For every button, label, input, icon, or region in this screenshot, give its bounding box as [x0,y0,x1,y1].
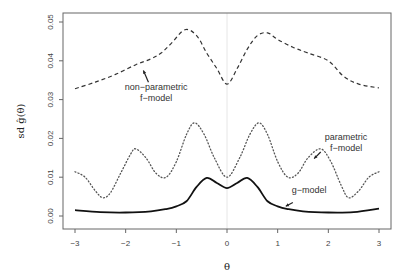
x-axis-title: θ [224,261,230,272]
annotation-label: non−parametric [125,82,188,92]
x-axis: −3−2−10123 [70,229,381,248]
y-tick-label: 0.04 [46,52,55,68]
y-tick-label: 0.03 [46,91,55,107]
chart-figure: −3−2−10123 0.000.010.020.030.040.05 non−… [0,0,409,280]
annotation-label: g−model [292,185,327,195]
x-tick-label: 1 [275,239,280,248]
x-tick-label: −2 [121,239,131,248]
y-tick-label: 0.05 [46,14,55,30]
annotation-label: f−model [140,93,172,103]
annotation-label: f−model [330,143,362,153]
y-tick-label: 0.00 [46,208,55,224]
y-tick-label: 0.01 [46,169,55,185]
y-axis-title: sd ĝ(θ) [15,103,26,138]
y-tick-label: 0.02 [46,130,55,146]
y-axis: 0.000.010.020.030.040.05 [46,14,63,224]
x-tick-label: 0 [225,239,230,248]
x-tick-label: 3 [377,239,382,248]
x-tick-label: −1 [172,239,182,248]
x-tick-label: 2 [326,239,331,248]
annotation-label: parametric [325,132,368,142]
annotations: non−parametricf−modelparametricf−modelg−… [125,71,368,207]
x-tick-label: −3 [70,239,80,248]
